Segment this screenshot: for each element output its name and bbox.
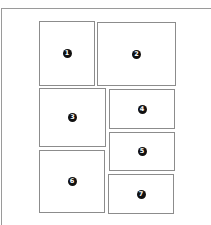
panel-4: 4 [109,89,175,129]
panel-3: 3 [39,88,106,147]
frame-left-edge [1,8,2,225]
number-badge-6: 6 [68,177,77,186]
number-badge-5: 5 [138,147,147,156]
number-badge-7: 7 [137,190,146,199]
panel-6: 6 [39,150,105,213]
frame-top-edge [1,8,211,9]
panel-1: 1 [39,21,95,86]
panel-7: 7 [108,174,174,214]
number-badge-4: 4 [138,105,147,114]
panel-2: 2 [97,22,176,86]
number-badge-1: 1 [63,49,72,58]
number-badge-3: 3 [68,113,77,122]
number-badge-2: 2 [132,50,141,59]
panel-5: 5 [109,132,175,171]
